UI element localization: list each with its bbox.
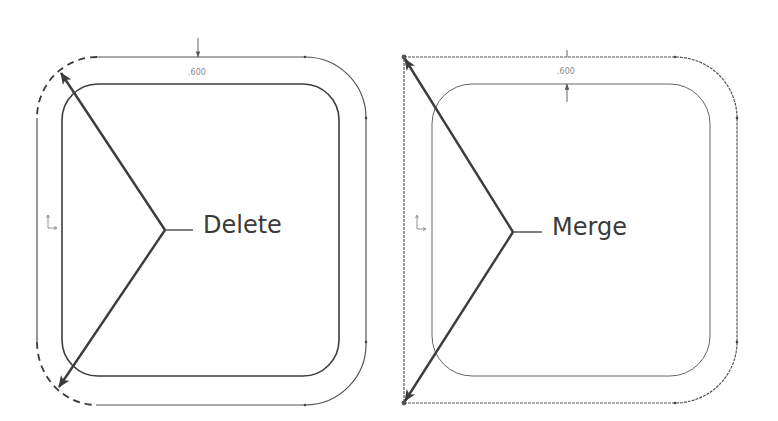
- dimension-label-delete: .600: [188, 69, 206, 77]
- origin-axes-icon: [416, 215, 427, 231]
- vertex-point: [736, 117, 739, 120]
- arrowhead-icon: [59, 230, 165, 387]
- vertex-point: [304, 404, 307, 407]
- figure-label-merge: Merge: [552, 215, 627, 239]
- inner-profile: [62, 84, 339, 376]
- vertex-point: [674, 56, 677, 59]
- diagram-canvas: [0, 0, 778, 421]
- figure-label-delete: Delete: [203, 213, 282, 237]
- vertex-point: [304, 56, 307, 59]
- deleted-corner-top: [37, 57, 97, 118]
- vertex-point: [365, 341, 368, 344]
- vertex-point: [365, 117, 368, 120]
- origin-axes-icon: [47, 215, 58, 230]
- vertex-point: [674, 402, 677, 405]
- arrowhead-icon: [405, 59, 513, 232]
- vertex-point: [736, 341, 739, 344]
- arrowhead-icon: [61, 73, 165, 230]
- dimension-label-merge: .600: [557, 68, 575, 76]
